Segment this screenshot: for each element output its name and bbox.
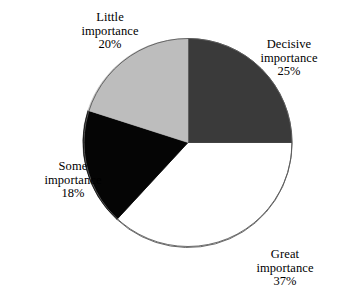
pie-label-great-importance-line1: Great: [228, 248, 342, 262]
pie-label-great-importance-line2: importance: [228, 262, 342, 276]
pie-label-decisive-importance-line1: Decisive: [232, 38, 346, 52]
pie-label-great-importance: Great importance 37%: [228, 248, 342, 289]
pie-label-some-importance-line1: Some: [18, 160, 128, 174]
pie-label-some-importance-line2: importance: [18, 174, 128, 188]
pie-chart-figure: Little importance 20% Decisive importanc…: [0, 0, 347, 301]
pie-label-decisive-importance: Decisive importance 25%: [232, 38, 346, 79]
pie-label-little-importance: Little importance 20%: [54, 11, 166, 52]
pie-label-little-importance-value: 20%: [54, 38, 166, 52]
pie-label-great-importance-value: 37%: [228, 275, 342, 289]
pie-label-some-importance: Some importance 18%: [18, 160, 128, 201]
pie-label-some-importance-value: 18%: [18, 187, 128, 201]
pie-label-decisive-importance-line2: importance: [232, 52, 346, 66]
pie-label-little-importance-line2: importance: [54, 25, 166, 39]
pie-label-decisive-importance-value: 25%: [232, 65, 346, 79]
pie-label-little-importance-line1: Little: [54, 11, 166, 25]
